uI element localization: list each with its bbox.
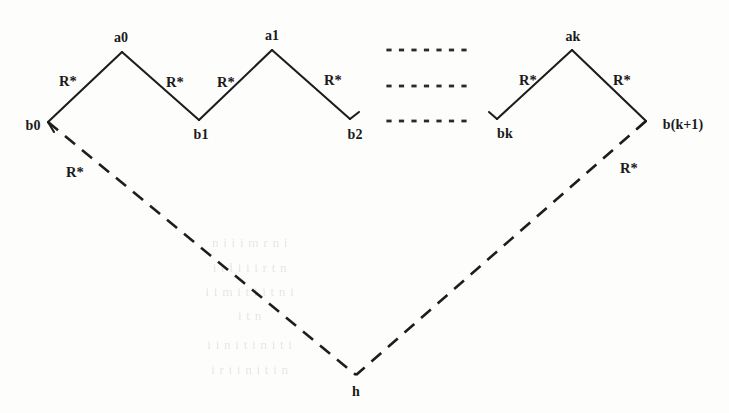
node-label-b0: b0	[26, 119, 41, 133]
edge-label-a0-b1: R*	[166, 75, 184, 90]
hook-tick-3	[637, 121, 646, 129]
edge-label-b0-h: R*	[66, 165, 84, 180]
node-label-bk1: b(k+1)	[663, 118, 703, 132]
node-label-ak: ak	[566, 30, 581, 44]
edge-label-a1-b2: R*	[324, 73, 342, 88]
solid-edge-group	[48, 50, 646, 122]
edge-ak-bk1	[572, 50, 646, 121]
edge-a0-b1	[122, 52, 199, 120]
node-label-bk: bk	[497, 127, 513, 141]
edge-label-bk-ak: R*	[519, 73, 537, 88]
edge-label-ak-bk1: R*	[613, 73, 631, 88]
node-label-b2: b2	[348, 128, 363, 142]
node-label-a0: a0	[114, 31, 128, 45]
edge-label-bk1-h: R*	[620, 161, 638, 176]
edge-label-b1-a1: R*	[217, 75, 235, 90]
node-label-b1: b1	[194, 128, 209, 142]
node-label-a1: a1	[265, 29, 279, 43]
zigzag-diagram	[0, 0, 729, 413]
edge-label-b0-a0: R*	[59, 74, 77, 89]
edge-b0-h	[48, 122, 356, 375]
ellipsis-dots-group	[386, 50, 466, 121]
edge-b1-a1	[199, 50, 272, 120]
edge-bk1-h	[356, 121, 646, 375]
diagram-canvas: n i i i m r n ii t l i i i r t ni i m i …	[0, 0, 729, 413]
dashed-edge-group	[48, 121, 646, 375]
hook-tick-2	[489, 112, 497, 119]
hook-tick-1	[350, 112, 359, 119]
node-label-h: h	[352, 385, 360, 399]
